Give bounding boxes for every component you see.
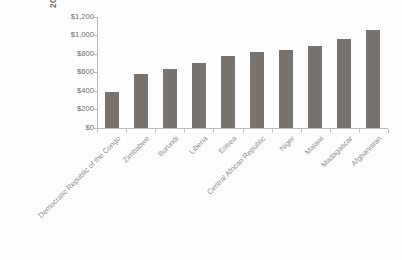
y-axis-tick-mark [93,35,97,36]
x-axis-category-label[interactable]: Democratic Republic of the Congo [36,134,122,220]
x-axis-category-label[interactable]: Eritrea [217,134,239,156]
y-axis-tick-label: $400 [62,87,94,95]
x-axis-tick-mark [184,129,185,133]
y-axis-tick-label: $1,000 [62,31,94,39]
bar[interactable] [163,69,177,128]
y-axis-tick-label: $600 [62,68,94,76]
y-axis-tick-mark [93,17,97,18]
x-axis-tick-mark [213,129,214,133]
x-axis-category-label[interactable]: Niger [278,134,297,153]
x-axis-tick-mark [272,129,273,133]
bar[interactable] [308,46,322,128]
bar[interactable] [250,52,264,128]
x-axis-tick-mark [97,129,98,133]
x-axis-tick-mark [243,129,244,133]
x-axis-tick-mark [359,129,360,133]
y-axis-tick-label: $200 [62,105,94,113]
bar[interactable] [134,74,148,128]
y-axis-tick-mark [93,72,97,73]
x-axis-tick-mark [155,129,156,133]
y-axis-tick-mark [93,54,97,55]
bar[interactable] [192,63,206,129]
x-axis-category-label[interactable]: Afghanistan [350,134,384,168]
plot-area [97,17,388,129]
x-axis-category-label[interactable]: Central African Republic [205,134,267,196]
bar[interactable] [105,92,119,128]
x-axis-category-label[interactable]: Malawi [303,134,326,157]
y-axis-tick-mark [93,91,97,92]
x-axis-tick-mark [126,129,127,133]
bar-chart: 2013 U.S. Dollars $0$200$400$600$800$1,0… [0,0,402,260]
y-axis-tick-label: $1,200 [62,13,94,21]
x-axis-category-label[interactable]: Burundi [156,134,180,158]
bar[interactable] [279,50,293,128]
bar[interactable] [366,30,380,128]
x-axis-tick-mark [330,129,331,133]
bar[interactable] [337,39,351,128]
y-axis-tick-label: $0 [62,124,94,132]
x-axis-tick-mark [301,129,302,133]
x-axis-category-label[interactable]: Liberia [187,134,209,156]
y-axis-tick-label: $800 [62,50,94,58]
x-axis-category-label[interactable]: Zimbabwe [121,134,151,164]
x-axis-tick-mark [388,129,389,133]
y-axis-title: 2013 U.S. Dollars [46,0,60,30]
y-axis-tick-labels: $0$200$400$600$800$1,000$1,200 [62,10,94,134]
y-axis-tick-mark [93,109,97,110]
bar[interactable] [221,56,235,128]
